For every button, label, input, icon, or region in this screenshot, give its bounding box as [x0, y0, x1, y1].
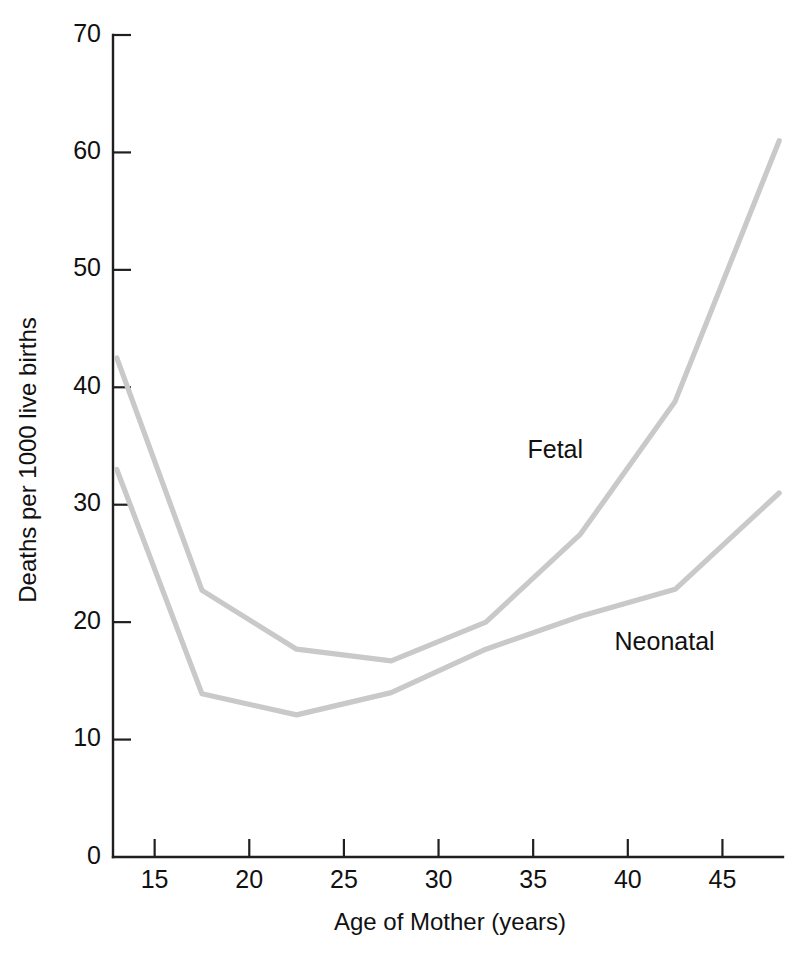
x-tick-label: 25 — [330, 865, 358, 893]
x-tick-label: 35 — [519, 865, 547, 893]
y-tick-label: 10 — [73, 723, 101, 751]
series-label-neonatal: Neonatal — [615, 627, 715, 655]
x-tick-label: 40 — [614, 865, 642, 893]
y-tick-label: 50 — [73, 253, 101, 281]
x-tick-label: 30 — [425, 865, 453, 893]
line-chart: Deaths per 1000 live births 0 10 20 30 4… — [0, 0, 797, 957]
y-axis-title: Deaths per 1000 live births — [14, 317, 41, 603]
x-tick-label: 45 — [709, 865, 737, 893]
y-tick-label: 70 — [73, 19, 101, 47]
y-tick-label: 0 — [87, 841, 101, 869]
x-tick-marks — [155, 839, 723, 857]
y-tick-label: 30 — [73, 488, 101, 516]
x-tick-labels: 15 20 25 30 35 40 45 — [141, 865, 737, 893]
y-tick-labels: 0 10 20 30 40 50 60 70 — [73, 19, 101, 869]
y-tick-label: 60 — [73, 136, 101, 164]
series-label-fetal: Fetal — [527, 435, 583, 463]
x-axis-title: Age of Mother (years) — [334, 908, 566, 935]
series-line-neonatal — [117, 470, 779, 715]
y-tick-label: 40 — [73, 371, 101, 399]
x-tick-label: 20 — [235, 865, 263, 893]
y-tick-label: 20 — [73, 606, 101, 634]
x-tick-label: 15 — [141, 865, 169, 893]
chart-figure: Deaths per 1000 live births 0 10 20 30 4… — [0, 0, 797, 957]
